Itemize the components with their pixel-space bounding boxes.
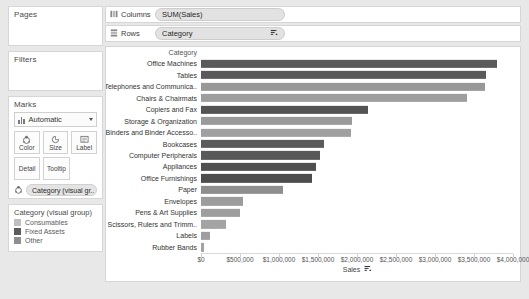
axis-tick-label: $500,000 (226, 256, 253, 263)
size-icon (51, 135, 60, 144)
bar[interactable] (201, 117, 352, 125)
legend-item[interactable]: Other (9, 236, 102, 245)
bar-row (201, 58, 513, 69)
row-label[interactable]: Binders and Binder Accesso.. (106, 127, 201, 138)
axis-title-label: Sales (343, 266, 361, 273)
columns-pill-label: SUM(Sales) (162, 10, 202, 19)
row-label[interactable]: Office Machines (106, 58, 201, 69)
row-label[interactable]: Telephones and Communica.. (106, 81, 201, 92)
sort-descending-icon[interactable] (270, 29, 278, 39)
bar[interactable] (201, 186, 283, 194)
row-label[interactable]: Chairs & Chairmats (106, 92, 201, 103)
tooltip-button-label: Tooltip (47, 165, 66, 172)
row-label[interactable]: Paper (106, 184, 201, 195)
row-label[interactable]: Labels (106, 230, 201, 241)
columns-shelf-dropzone[interactable]: SUM(Sales) (154, 6, 520, 23)
row-label[interactable]: Appliances (106, 161, 201, 172)
color-palette-icon (22, 135, 31, 144)
bar-row (201, 127, 513, 138)
columns-icon (110, 10, 118, 20)
bar[interactable] (201, 83, 485, 91)
sort-descending-icon[interactable] (363, 265, 371, 274)
row-label-list: Office MachinesTablesTelephones and Comm… (106, 58, 201, 253)
mark-type-dropdown[interactable]: Automatic (14, 112, 97, 127)
legend-item-label: Fixed Assets (25, 228, 65, 235)
bar-row (201, 219, 513, 230)
bar-row (201, 69, 513, 80)
left-panel: Pages Filters Marks Automatic Color (8, 6, 103, 293)
legend-item[interactable]: Fixed Assets (9, 227, 102, 236)
label-icon (80, 135, 89, 144)
axis-title[interactable]: Sales (343, 265, 372, 274)
bar-row (201, 207, 513, 218)
bar[interactable] (201, 163, 316, 171)
row-label[interactable]: Computer Peripherals (106, 150, 201, 161)
color-button[interactable]: Color (14, 131, 40, 154)
mark-type-value: Automatic (29, 115, 90, 124)
color-legend-title: Category (visual group) (9, 205, 102, 218)
columns-shelf-name: Columns (106, 10, 154, 20)
columns-shelf-label: Columns (121, 10, 151, 19)
row-label[interactable]: Bookcases (106, 138, 201, 149)
row-labels-column: Category Office MachinesTablesTelephones… (106, 47, 201, 253)
marks-color-pill-row: Category (visual gr.. (9, 183, 102, 196)
rows-shelf-dropzone[interactable]: Category (154, 25, 520, 42)
detail-button[interactable]: Detail (14, 157, 40, 180)
axis-tick-label: $0 (197, 256, 204, 263)
rows-pill[interactable]: Category (155, 27, 285, 40)
color-palette-icon (14, 185, 23, 196)
size-button[interactable]: Size (43, 131, 69, 154)
bar[interactable] (201, 105, 368, 113)
pages-card[interactable]: Pages (8, 6, 103, 46)
tooltip-button[interactable]: Tooltip (43, 157, 69, 180)
axis-tick-label: $2,000,000 (341, 256, 374, 263)
columns-pill[interactable]: SUM(Sales) (155, 8, 285, 21)
chevron-down-icon (89, 118, 93, 121)
detail-button-label: Detail (19, 165, 36, 172)
columns-shelf[interactable]: Columns SUM(Sales) (105, 6, 521, 23)
bar[interactable] (201, 128, 351, 136)
bar-row (201, 161, 513, 172)
marks-card-title: Marks (9, 97, 102, 111)
bar-row (201, 184, 513, 195)
rows-shelf[interactable]: Rows Category (105, 25, 521, 42)
row-label[interactable]: Envelopes (106, 196, 201, 207)
row-label[interactable]: Scissors, Rulers and Trimm.. (106, 219, 201, 230)
bar[interactable] (201, 209, 240, 217)
row-label[interactable]: Tables (106, 69, 201, 80)
row-label[interactable]: Rubber Bands (106, 242, 201, 253)
color-legend-card: Category (visual group) Consumables Fixe… (8, 204, 103, 252)
row-header-title: Category (106, 47, 201, 58)
color-button-label: Color (19, 144, 35, 151)
bar[interactable] (201, 151, 320, 159)
x-axis[interactable]: $0$500,000$1,000,000$1,500,000$2,000,000… (201, 253, 513, 277)
bar[interactable] (201, 174, 312, 182)
legend-item-label: Consumables (25, 219, 68, 226)
marks-buttons-row-2: Detail Tooltip (9, 157, 102, 183)
bar[interactable] (201, 243, 204, 251)
bar-row (201, 196, 513, 207)
bar[interactable] (201, 60, 497, 68)
legend-swatch (14, 219, 21, 226)
bar-row (201, 230, 513, 241)
row-label[interactable]: Copiers and Fax (106, 104, 201, 115)
rows-pill-label: Category (162, 29, 192, 38)
bar[interactable] (201, 140, 324, 148)
row-label[interactable]: Storage & Organization (106, 115, 201, 126)
bar[interactable] (201, 94, 467, 102)
bar-row (201, 173, 513, 184)
filters-card[interactable]: Filters (8, 51, 103, 91)
bar[interactable] (201, 71, 486, 79)
legend-item[interactable]: Consumables (9, 218, 102, 227)
row-label[interactable]: Pens & Art Supplies (106, 207, 201, 218)
bar[interactable] (201, 197, 243, 205)
marks-color-pill[interactable]: Category (visual gr.. (26, 184, 97, 196)
bar-mark-icon (18, 116, 26, 124)
bar-row (201, 92, 513, 103)
row-label[interactable]: Office Furnishings (106, 173, 201, 184)
bar[interactable] (201, 232, 210, 240)
chart-card: Category Office MachinesTablesTelephones… (105, 46, 521, 282)
label-button[interactable]: Label (71, 131, 97, 154)
bar[interactable] (201, 220, 226, 228)
